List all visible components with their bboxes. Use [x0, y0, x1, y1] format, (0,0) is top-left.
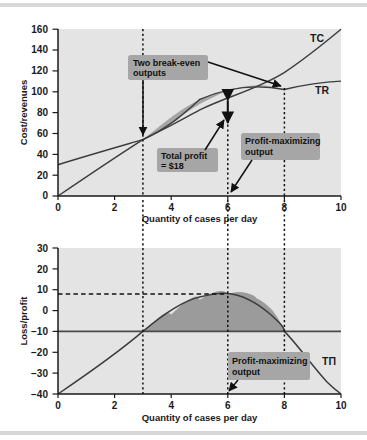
top-ytick-120: 120 — [31, 65, 48, 76]
bottom-ytick-neg30: −30 — [31, 368, 48, 379]
top-y-ticks — [53, 29, 59, 196]
bottom-ytick-neg20: −20 — [31, 347, 48, 358]
bottom-xtick-0: 0 — [55, 400, 61, 411]
tpi-curve-label: TΠ — [322, 355, 336, 367]
bottom-y-axis-title: Loss/profit — [18, 296, 29, 346]
bottom-ytick-neg40: −40 — [31, 389, 48, 400]
tr-curve-label: TR — [315, 84, 329, 96]
bottom-ytick-10: 10 — [37, 284, 49, 295]
bottom-ytick-0: 0 — [42, 305, 48, 316]
bottom-xtick-10: 10 — [335, 400, 347, 411]
callout-pmax-bottom-line2: output — [232, 367, 260, 377]
top-ytick-0: 0 — [42, 190, 48, 201]
top-ytick-140: 140 — [31, 44, 48, 55]
bottom-x-axis-title: Quantity of cases per day — [142, 412, 258, 423]
bottom-xtick-4: 4 — [168, 400, 174, 411]
top-ytick-160: 160 — [31, 24, 48, 35]
top-xtick-0: 0 — [55, 202, 61, 213]
callout-breakeven-line1: Two break-even — [133, 58, 200, 68]
callout-breakeven-line2: outputs — [133, 68, 166, 78]
top-x-axis-title: Quantity of cases per day — [142, 213, 258, 224]
top-ytick-20: 20 — [37, 170, 49, 181]
economics-figure: 160 140 120 100 80 60 40 20 0 0 2 4 6 8 — [0, 0, 367, 440]
top-panel: 160 140 120 100 80 60 40 20 0 0 2 4 6 8 — [18, 24, 347, 248]
top-ytick-60: 60 — [37, 128, 49, 139]
bottom-panel: 30 20 10 0 −10 −20 −30 −40 0 2 4 6 8 10 — [18, 243, 347, 423]
bottom-y-ticks — [53, 248, 59, 394]
top-ytick-80: 80 — [37, 107, 49, 118]
callout-total-profit-line1: Total profit — [161, 151, 207, 161]
top-ytick-100: 100 — [31, 86, 48, 97]
callout-pmax-top-line2: output — [245, 147, 273, 157]
tc-curve-label: TC — [310, 32, 324, 44]
bottom-ytick-neg10: −10 — [31, 326, 48, 337]
top-y-axis-title: Cost/revenues — [18, 80, 29, 145]
bottom-ytick-30: 30 — [37, 243, 49, 254]
callout-total-profit-line2: = $18 — [161, 161, 184, 171]
bottom-ytick-20: 20 — [37, 264, 49, 275]
callout-pmax-top-line1: Profit-maximizing — [245, 136, 321, 146]
bottom-xtick-6: 6 — [225, 400, 231, 411]
top-xtick-10: 10 — [335, 202, 347, 213]
top-xtick-2: 2 — [112, 202, 118, 213]
bottom-xtick-2: 2 — [112, 400, 118, 411]
top-ytick-40: 40 — [37, 149, 49, 160]
callout-pmax-bottom-line1: Profit-maximizing — [232, 356, 308, 366]
chart-canvas: 160 140 120 100 80 60 40 20 0 0 2 4 6 8 — [0, 0, 367, 440]
top-xtick-4: 4 — [168, 202, 174, 213]
bottom-xtick-8: 8 — [282, 400, 288, 411]
